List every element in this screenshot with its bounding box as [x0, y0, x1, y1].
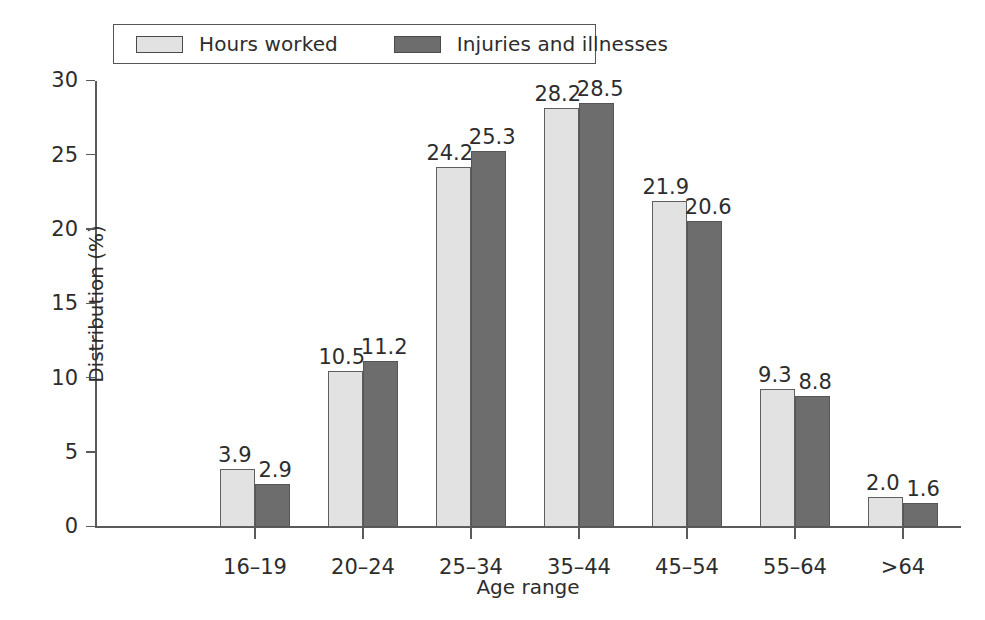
bar-hours-worked: 2.0	[868, 497, 903, 527]
bar-value-label: 28.2	[534, 84, 581, 105]
bar-hours-worked: 21.9	[652, 201, 687, 527]
y-axis-tick-label: 25	[51, 143, 78, 167]
bar-group: 9.38.855–64	[760, 81, 830, 527]
x-axis-tick-label: 35–44	[547, 555, 611, 579]
bar-group: 10.511.220–24	[328, 81, 398, 527]
bar-value-label: 3.9	[218, 445, 251, 466]
y-axis-tick: 25	[86, 154, 95, 156]
x-axis-tick	[362, 527, 364, 539]
bar-injuries-and-illnesses: 28.5	[579, 103, 614, 527]
x-axis-tick	[686, 527, 688, 539]
bar-value-label: 2.9	[258, 460, 291, 481]
bar-group: 21.920.645–54	[652, 81, 722, 527]
x-axis-tick-label: 20–24	[331, 555, 395, 579]
x-axis-tick-label: >64	[881, 555, 925, 579]
y-axis-tick-label: 30	[51, 68, 78, 92]
y-axis-tick: 20	[86, 228, 95, 230]
chart-legend: Hours worked Injuries and illnesses	[113, 24, 596, 64]
bar-chart: Hours worked Injuries and illnesses Dist…	[0, 0, 985, 620]
bar-value-label: 28.5	[577, 79, 624, 100]
y-axis-tick-label: 10	[51, 366, 78, 390]
x-axis-tick	[578, 527, 580, 539]
bar-injuries-and-illnesses: 1.6	[903, 503, 938, 527]
legend-label-injuries-and-illnesses: Injuries and illnesses	[457, 32, 668, 56]
bar-injuries-and-illnesses: 11.2	[363, 361, 398, 528]
bar-hours-worked: 24.2	[436, 167, 471, 527]
bar-value-label: 9.3	[758, 365, 791, 386]
y-axis-tick-label: 20	[51, 217, 78, 241]
bar-hours-worked: 3.9	[220, 469, 255, 527]
legend-swatch-hours-worked	[136, 36, 183, 53]
y-axis-tick: 5	[86, 451, 95, 453]
bar-value-label: 25.3	[469, 127, 516, 148]
y-axis-tick: 0	[86, 526, 95, 528]
bar-hours-worked: 28.2	[544, 108, 579, 527]
bar-hours-worked: 10.5	[328, 371, 363, 527]
bar-value-label: 20.6	[685, 197, 732, 218]
y-axis-tick-label: 5	[65, 440, 78, 464]
bar-group: 2.01.6>64	[868, 81, 938, 527]
y-axis-title: Distribution (%)	[84, 225, 108, 383]
x-axis-tick	[470, 527, 472, 539]
bar-value-label: 11.2	[361, 337, 408, 358]
x-axis-tick	[794, 527, 796, 539]
bar-injuries-and-illnesses: 2.9	[255, 484, 290, 527]
bar-group: 3.92.916–19	[220, 81, 290, 527]
bar-group: 24.225.325–34	[436, 81, 506, 527]
bar-injuries-and-illnesses: 20.6	[687, 221, 722, 527]
legend-label-hours-worked: Hours worked	[199, 32, 338, 56]
y-axis-tick: 10	[86, 377, 95, 379]
x-axis-tick	[902, 527, 904, 539]
y-axis-tick-label: 15	[51, 291, 78, 315]
legend-swatch-injuries-and-illnesses	[394, 36, 441, 53]
bar-value-label: 2.0	[866, 473, 899, 494]
y-axis-tick-label: 0	[65, 514, 78, 538]
x-axis-tick-label: 16–19	[223, 555, 287, 579]
bar-value-label: 21.9	[642, 177, 689, 198]
bar-value-label: 1.6	[906, 479, 939, 500]
y-axis-tick: 30	[86, 80, 95, 82]
bar-value-label: 24.2	[426, 143, 473, 164]
bar-value-label: 10.5	[318, 347, 365, 368]
x-axis-tick-label: 45–54	[655, 555, 719, 579]
bar-injuries-and-illnesses: 25.3	[471, 151, 506, 527]
bar-group: 28.228.535–44	[544, 81, 614, 527]
plot-area: Distribution (%) Age range 051015202530 …	[95, 81, 961, 527]
legend-entry-hours-worked: Hours worked	[136, 32, 338, 56]
bar-injuries-and-illnesses: 8.8	[795, 396, 830, 527]
bar-value-label: 8.8	[798, 372, 831, 393]
x-axis-tick-label: 25–34	[439, 555, 503, 579]
x-axis-tick	[254, 527, 256, 539]
legend-entry-injuries-and-illnesses: Injuries and illnesses	[394, 32, 668, 56]
y-axis-tick: 15	[86, 303, 95, 305]
bar-hours-worked: 9.3	[760, 389, 795, 527]
x-axis-tick-label: 55–64	[763, 555, 827, 579]
